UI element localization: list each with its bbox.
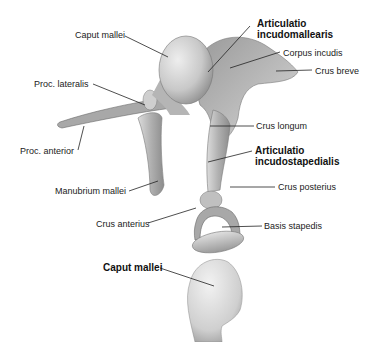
label-crus-breve: Crus breve xyxy=(315,66,359,76)
incus-crus-longum xyxy=(207,110,230,192)
label-articulatio-incudomallearis-line1: Articulatio xyxy=(257,18,306,29)
label-crus-posterius: Crus posterius xyxy=(278,182,336,192)
label-articulatio-incudomallearis-line2: incudomallearis xyxy=(257,29,333,40)
label-articulatio-incudostapedialis-line1: Articulatio xyxy=(255,145,304,156)
label-crus-longum: Crus longum xyxy=(256,121,307,131)
malleus-head xyxy=(159,36,213,104)
stapes-head xyxy=(200,191,222,209)
label-crus-anterius: Crus anterius xyxy=(96,219,150,229)
label-manubrium-mallei: Manubrium mallei xyxy=(55,186,126,196)
label-basis-stapedis: Basis stapedis xyxy=(264,221,322,231)
label-caput-mallei: Caput mallei xyxy=(75,30,125,40)
label-corpus-incudis: Corpus incudis xyxy=(283,48,343,58)
label-caput-mallei-lower: Caput mallei xyxy=(103,262,162,273)
lower-malleus xyxy=(187,259,242,342)
label-articulatio-incudostapedialis-line2: incudostapedialis xyxy=(255,156,339,167)
label-proc-lateralis: Proc. lateralis xyxy=(34,79,89,89)
label-proc-anterior: Proc. anterior xyxy=(20,146,74,156)
